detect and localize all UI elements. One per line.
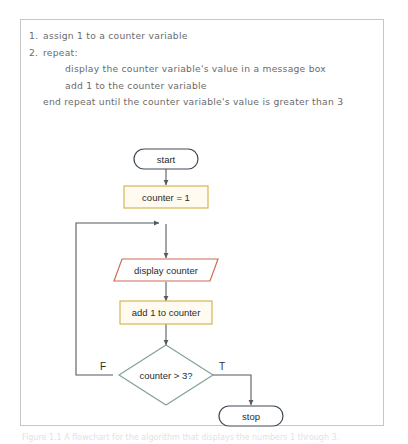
edge-label-false: F xyxy=(100,361,106,372)
flowchart-node-decision: counter > 3? xyxy=(119,345,213,405)
flowchart-node-display: display counter xyxy=(114,259,218,281)
flowchart-node-start: start xyxy=(134,149,198,169)
decision-label: counter > 3? xyxy=(139,370,192,381)
edge-loopback xyxy=(76,223,159,375)
stop-label: stop xyxy=(242,411,260,422)
flowchart-diagram: start counter = 1 display counter add 1 … xyxy=(21,20,385,427)
init-label: counter = 1 xyxy=(142,192,190,203)
figure-frame: 1.assign 1 to a counter variable 2.repea… xyxy=(20,19,384,426)
edge-true-to-stop xyxy=(204,375,251,405)
add-label: add 1 to counter xyxy=(132,307,201,318)
flowchart-node-stop: stop xyxy=(219,406,283,426)
start-label: start xyxy=(157,154,176,165)
flowchart-node-init: counter = 1 xyxy=(124,186,208,208)
display-label: display counter xyxy=(134,265,198,276)
figure-caption: Figure 1.1 A flowchart for the algorithm… xyxy=(22,432,386,444)
flowchart-node-add: add 1 to counter xyxy=(120,301,212,324)
edge-label-true: T xyxy=(219,361,225,372)
